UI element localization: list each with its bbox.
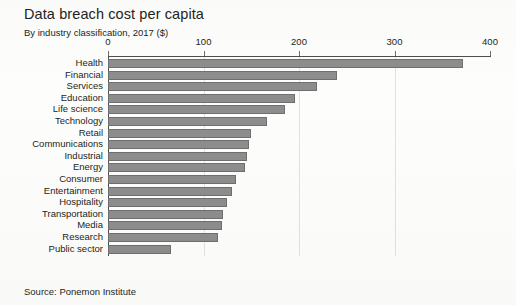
- category-label: Financial: [65, 69, 103, 81]
- category-label: Life science: [53, 103, 103, 115]
- bar-row: Health: [108, 59, 490, 68]
- category-label: Communications: [32, 138, 103, 150]
- category-label: Entertainment: [44, 185, 103, 197]
- bar: [108, 233, 218, 242]
- bar: [108, 71, 337, 80]
- category-label: Retail: [79, 127, 103, 139]
- bar: [108, 105, 285, 114]
- bar: [108, 187, 232, 196]
- bar: [108, 198, 227, 207]
- bar-row: Education: [108, 94, 490, 103]
- x-axis-tick-label: 400: [482, 36, 498, 47]
- category-label: Transportation: [42, 208, 103, 220]
- bar-row: Financial: [108, 71, 490, 80]
- chart-page: Data breach cost per capita By industry …: [0, 0, 516, 305]
- category-label: Health: [76, 57, 103, 69]
- bar-row: Services: [108, 82, 490, 91]
- chart-subtitle: By industry classification, 2017 ($): [24, 27, 168, 38]
- bar-row: Energy: [108, 163, 490, 172]
- bar-row: Public sector: [108, 245, 490, 254]
- x-axis-tick-label: 300: [387, 36, 403, 47]
- bar: [108, 129, 251, 138]
- bar: [108, 163, 245, 172]
- category-label: Consumer: [59, 173, 103, 185]
- category-label: Technology: [55, 115, 103, 127]
- category-label: Public sector: [49, 243, 103, 255]
- bar: [108, 175, 236, 184]
- page-title: Data breach cost per capita: [24, 6, 204, 22]
- category-label: Industrial: [64, 150, 103, 162]
- bar-row: Entertainment: [108, 187, 490, 196]
- source-note: Source: Ponemon Institute: [24, 286, 136, 297]
- category-label: Research: [62, 231, 103, 243]
- bar: [108, 82, 317, 91]
- bar: [108, 221, 222, 230]
- bar-row: Life science: [108, 105, 490, 114]
- bar-row: Transportation: [108, 210, 490, 219]
- category-label: Education: [61, 92, 103, 104]
- bar: [108, 59, 463, 68]
- bar-row: Technology: [108, 117, 490, 126]
- bar-row: Hospitality: [108, 198, 490, 207]
- plot-area: HealthFinancialServicesEducationLife sci…: [108, 57, 490, 256]
- category-label: Media: [77, 219, 103, 231]
- category-label: Energy: [73, 161, 103, 173]
- bar-row: Media: [108, 221, 490, 230]
- bar: [108, 94, 295, 103]
- bar: [108, 117, 267, 126]
- x-axis-tick-label: 0: [105, 36, 110, 47]
- x-axis-tick-label: 200: [291, 36, 307, 47]
- bar-row: Industrial: [108, 152, 490, 161]
- category-label: Services: [67, 80, 103, 92]
- bar: [108, 245, 171, 254]
- bar-row: Communications: [108, 140, 490, 149]
- bar: [108, 152, 247, 161]
- bar: [108, 210, 223, 219]
- x-axis-tick-label: 100: [196, 36, 212, 47]
- bar-row: Retail: [108, 129, 490, 138]
- bar-row: Research: [108, 233, 490, 242]
- bar-row: Consumer: [108, 175, 490, 184]
- bar: [108, 140, 249, 149]
- category-label: Hospitality: [59, 196, 103, 208]
